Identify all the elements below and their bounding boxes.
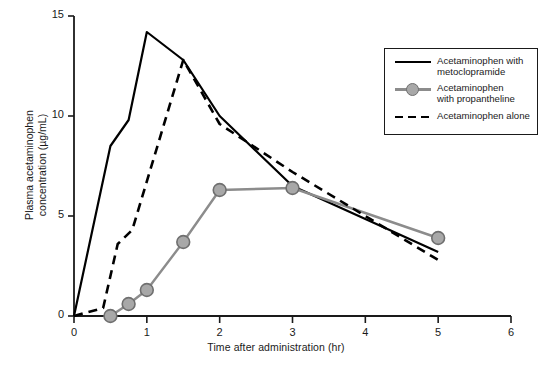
legend-label-line2: metoclopramide	[437, 66, 523, 77]
data-point-marker	[432, 232, 445, 245]
x-tick-label: 1	[127, 326, 167, 338]
data-point-marker	[122, 298, 135, 311]
data-point-marker	[140, 284, 153, 297]
legend-label-line2: with propantheline	[437, 93, 515, 104]
data-point-marker	[104, 310, 117, 323]
chart-figure: 051015 0123456 Plasma acetaminophen conc…	[0, 0, 552, 367]
legend-item-propantheline: Acetaminophen with propantheline	[385, 82, 539, 105]
legend-label-metoclopramide: Acetaminophen with metoclopramide	[435, 55, 523, 78]
legend-label-line1: Acetaminophen with	[437, 55, 523, 66]
solid-line-icon	[391, 55, 435, 69]
data-point-marker	[213, 184, 226, 197]
x-tick-label: 5	[418, 326, 458, 338]
dashed-line-icon	[391, 110, 435, 124]
legend-item-alone: Acetaminophen alone	[385, 110, 539, 124]
y-tick-label: 0	[28, 308, 64, 320]
legend-label-line1: Acetaminophen	[437, 82, 515, 93]
legend-label-alone: Acetaminophen alone	[435, 110, 530, 121]
y-tick-label: 15	[28, 8, 64, 20]
x-tick-label: 2	[200, 326, 240, 338]
y-axis-label-line2: concentration (µg/mL)	[36, 55, 49, 275]
x-tick-label: 3	[273, 326, 313, 338]
series-line	[110, 188, 438, 316]
x-tick-label: 4	[345, 326, 385, 338]
data-point-marker	[286, 182, 299, 195]
chart-legend: Acetaminophen with metoclopramide Acetam…	[384, 48, 538, 135]
data-point-marker	[177, 236, 190, 249]
legend-item-metoclopramide: Acetaminophen with metoclopramide	[385, 55, 539, 78]
y-axis-label: Plasma acetaminophen concentration (µg/m…	[23, 55, 53, 275]
x-tick-label: 0	[54, 326, 94, 338]
gray-line-marker-icon	[391, 82, 435, 96]
legend-label-propantheline: Acetaminophen with propantheline	[435, 82, 515, 105]
legend-label-line1: Acetaminophen alone	[437, 110, 530, 121]
x-tick-label: 6	[491, 326, 531, 338]
y-axis-label-line1: Plasma acetaminophen	[23, 55, 36, 275]
x-axis-label: Time after administration (hr)	[0, 341, 552, 353]
